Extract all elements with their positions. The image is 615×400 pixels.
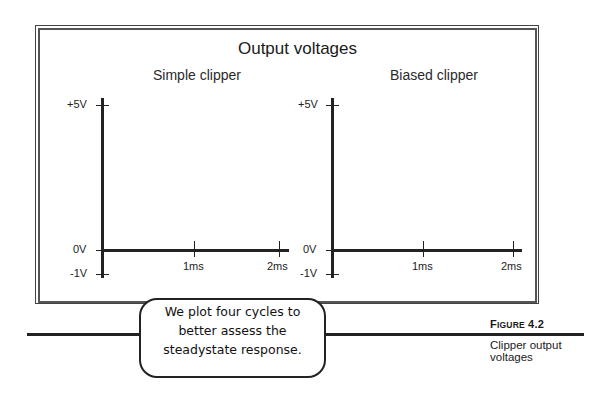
x-tick-1ms	[194, 241, 195, 257]
x-tick-label: 2ms	[501, 260, 522, 272]
y-tick-label: 0V	[73, 243, 86, 255]
x-axis	[102, 249, 289, 252]
figure-label-prefix: F	[490, 318, 497, 330]
chart-title: Output voltages	[0, 39, 615, 59]
x-axis	[332, 249, 522, 252]
y-tick-neg1v	[96, 274, 109, 275]
annotation-callout: We plot four cycles to better assess the…	[139, 298, 326, 378]
y-tick-neg1v	[326, 274, 339, 275]
x-tick-1ms	[423, 241, 424, 257]
panel-title: Biased clipper	[390, 67, 478, 83]
y-tick-label: -1V	[70, 267, 87, 279]
figure-label: FIGURE 4.2	[490, 318, 544, 330]
x-tick-label: 2ms	[267, 260, 288, 272]
x-tick-label: 1ms	[412, 260, 433, 272]
callout-line: steadystate response.	[141, 340, 324, 359]
figure-caption-line: Clipper output	[490, 339, 562, 351]
x-tick-2ms	[513, 241, 514, 257]
y-tick-label: +5V	[67, 98, 87, 110]
figure-number: 4.2	[528, 318, 544, 330]
figure-caption-line: voltages	[490, 351, 562, 363]
figure-label-smallcaps: IGURE	[497, 320, 525, 330]
panel-title: Simple clipper	[153, 67, 241, 83]
callout-line: better assess the	[141, 321, 324, 340]
figure-caption: Clipper output voltages	[490, 339, 562, 363]
y-tick-label: -1V	[300, 267, 317, 279]
x-tick-label: 1ms	[183, 260, 204, 272]
x-tick-2ms	[279, 241, 280, 257]
y-tick-label: 0V	[303, 243, 316, 255]
y-tick-5v	[96, 105, 109, 106]
chart-title-text: Output voltages	[238, 39, 357, 58]
callout-line: We plot four cycles to	[141, 302, 324, 321]
y-tick-label: +5V	[298, 98, 318, 110]
y-tick-5v	[326, 105, 339, 106]
